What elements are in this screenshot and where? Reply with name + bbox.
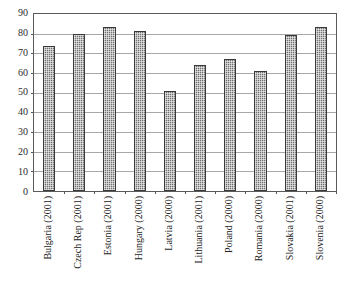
- x-axis-category-label: Estonia (2001): [103, 196, 113, 255]
- bar-chart-figure: 90 80 70 60 50 40 30 20 10 0 Bulgaria (2…: [0, 0, 351, 289]
- y-tick-label: 20: [18, 147, 28, 157]
- x-axis-category-label: Czech Rep (2001): [73, 196, 83, 269]
- x-axis-category-label: Bulgaria (2001): [43, 196, 53, 260]
- bar: [194, 65, 206, 191]
- y-axis: 90 80 70 60 50 40 30 20 10 0: [0, 0, 33, 289]
- y-tick-label: 30: [18, 127, 28, 137]
- plot-area: [33, 13, 337, 192]
- x-axis-category-label: Poland (2000): [224, 196, 234, 253]
- bar: [43, 46, 55, 191]
- y-tick-label: 50: [18, 87, 28, 97]
- x-label-slot: Bulgaria (2001): [33, 193, 63, 289]
- bar: [73, 34, 85, 191]
- bar: [134, 31, 146, 191]
- x-axis: Bulgaria (2001)Czech Rep (2001)Estonia (…: [33, 193, 337, 289]
- x-label-slot: Estonia (2001): [93, 193, 123, 289]
- y-tick-label: 10: [18, 167, 28, 177]
- x-label-slot: Slovakia (2001): [275, 193, 305, 289]
- bar: [254, 71, 266, 191]
- x-axis-category-label: Latvia (2000): [164, 196, 174, 251]
- x-axis-category-label: Slovenia (2000): [315, 196, 325, 260]
- x-label-slot: Hungary (2000): [124, 193, 154, 289]
- x-axis-category-label: Romania (2000): [254, 196, 264, 261]
- x-axis-category-label: Slovakia (2001): [285, 196, 295, 260]
- bar: [285, 35, 297, 191]
- bar: [315, 27, 327, 191]
- x-axis-category-label: Lithuania (2001): [194, 196, 204, 263]
- x-label-slot: Slovenia (2000): [305, 193, 335, 289]
- y-tick-label: 40: [18, 107, 28, 117]
- y-tick-label: 80: [18, 28, 28, 38]
- bar: [103, 27, 115, 191]
- bars-layer: [34, 14, 336, 191]
- x-axis-category-label: Hungary (2000): [134, 196, 144, 260]
- x-label-slot: Latvia (2000): [154, 193, 184, 289]
- x-label-slot: Poland (2000): [214, 193, 244, 289]
- y-tick-label: 60: [18, 68, 28, 78]
- x-label-slot: Romania (2000): [244, 193, 274, 289]
- y-tick-label: 0: [23, 187, 28, 197]
- x-label-slot: Lithuania (2001): [184, 193, 214, 289]
- x-label-slot: Czech Rep (2001): [63, 193, 93, 289]
- bar: [224, 59, 236, 191]
- y-tick-label: 90: [18, 8, 28, 18]
- bar: [164, 91, 176, 191]
- y-tick-label: 70: [18, 48, 28, 58]
